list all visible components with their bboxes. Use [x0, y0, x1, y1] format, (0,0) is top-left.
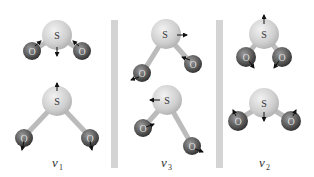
- mode-label-v2: v: [259, 155, 265, 170]
- atom-label: O: [78, 46, 85, 57]
- mode-v2-top: S O O: [236, 15, 292, 68]
- atom-label: O: [278, 52, 285, 63]
- mode-v1-bottom: S O O: [15, 83, 99, 150]
- atom-label: S: [261, 98, 267, 109]
- atom-label: O: [188, 141, 195, 152]
- mode-label-v1: v: [52, 155, 58, 170]
- atom-label: S: [261, 29, 267, 40]
- atom-label: S: [54, 30, 60, 41]
- atom-label: O: [28, 46, 35, 57]
- mode-subscript: 3: [168, 163, 172, 172]
- atom-label: S: [164, 95, 170, 106]
- panel-divider: [111, 20, 118, 168]
- mode-label-v3: v: [161, 155, 167, 170]
- mode-v1-top: S O O: [23, 20, 91, 60]
- mode-v3-bottom: S O O: [134, 85, 203, 155]
- atom-label: O: [287, 116, 294, 127]
- atom-label: O: [138, 68, 145, 79]
- atom-label: O: [234, 116, 241, 127]
- mode-v2-bottom: S O O: [228, 88, 301, 131]
- atom-label: S: [162, 29, 168, 40]
- atom-label: O: [189, 59, 196, 70]
- mode-v3-top: S O O: [131, 19, 202, 82]
- so2-vibrational-modes-diagram: S O O S O O v 1 S O O: [0, 0, 314, 177]
- atom-label: O: [242, 52, 249, 63]
- mode-subscript: 2: [266, 163, 270, 172]
- atom-label: S: [54, 96, 60, 107]
- atom-label: O: [139, 123, 146, 134]
- mode-subscript: 1: [59, 163, 63, 172]
- panel-divider: [216, 20, 223, 168]
